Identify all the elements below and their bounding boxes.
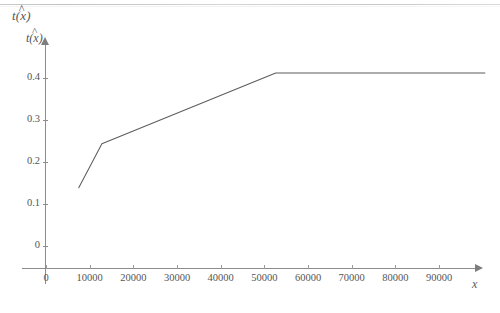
figure-canvas: ^t(x) ^t(x) x 00.10.20.30.4 010000200003… [0, 0, 500, 313]
data-series-line [79, 73, 485, 188]
plot-area [0, 0, 500, 313]
